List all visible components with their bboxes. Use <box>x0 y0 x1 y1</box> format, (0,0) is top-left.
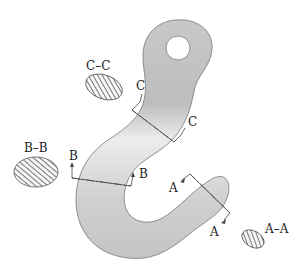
arrow-a-start <box>180 178 185 183</box>
cut-label-b-start: B <box>69 149 78 163</box>
cut-label-c-start: C <box>136 79 145 93</box>
section-label-c: C–C <box>86 59 110 73</box>
cut-label-b-end: B <box>139 167 148 181</box>
hook-diagram: C C B B A A C–C B–B A–A <box>0 0 305 275</box>
cut-label-c-end: C <box>188 115 197 129</box>
arrow-a-end <box>221 219 226 224</box>
section-label-b: B–B <box>24 141 48 155</box>
hook-body <box>76 20 229 259</box>
cut-label-a-start: A <box>168 181 178 195</box>
eye-hole <box>166 36 190 60</box>
section-c-c <box>82 69 126 105</box>
section-a-a <box>239 226 268 252</box>
section-label-a: A–A <box>264 222 289 236</box>
cut-label-a-end: A <box>209 225 219 239</box>
section-b-b <box>14 157 58 187</box>
